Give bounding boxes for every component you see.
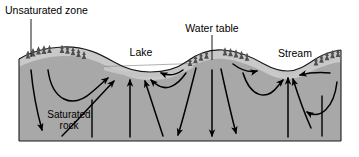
label-water-table: Water table bbox=[185, 22, 238, 34]
label-unsaturated-zone: Unsaturated zone bbox=[5, 4, 88, 16]
label-saturated-rock-line1: Saturated bbox=[47, 109, 90, 120]
label-saturated-rock-line2: rock bbox=[60, 120, 80, 131]
label-lake: Lake bbox=[130, 46, 153, 58]
groundwater-cross-section-figure: Unsaturated zone Water table Lake Stream… bbox=[0, 0, 359, 157]
diagram-canvas: Unsaturated zone Water table Lake Stream… bbox=[0, 0, 359, 157]
label-stream: Stream bbox=[278, 47, 312, 59]
